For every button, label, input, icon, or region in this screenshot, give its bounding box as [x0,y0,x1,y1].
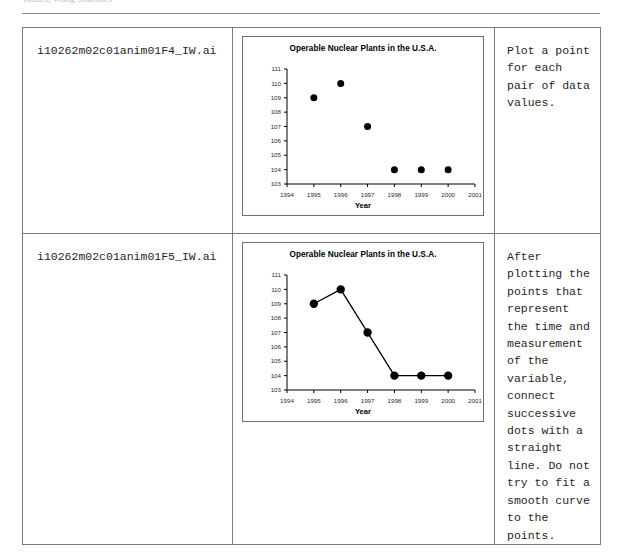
svg-text:2000: 2000 [441,397,455,404]
svg-text:107: 107 [271,329,282,336]
note-cell: Plot a point for each pair of data value… [495,28,601,234]
filename-cell: i10262m02c01anim01F4_IW.ai [23,28,233,234]
line-plot-svg: 1031041051061071081091101111994199519961… [243,243,485,423]
figure-cell: Operable Nuclear Plants in the U.S.A. 10… [233,28,495,234]
svg-text:1996: 1996 [334,191,348,198]
svg-text:108: 108 [271,314,282,321]
page-root: Vander, Wong Statistics i10262m02c01anim… [0,0,623,559]
svg-text:105: 105 [271,151,282,158]
svg-text:109: 109 [271,94,282,101]
figure-wrapper: Operable Nuclear Plants in the U.S.A. 10… [233,28,494,216]
figure-line: Operable Nuclear Plants in the U.S.A. 10… [242,242,484,422]
svg-text:106: 106 [271,343,282,350]
header-divider [22,13,600,14]
svg-text:109: 109 [271,300,282,307]
figure-wrapper: Operable Nuclear Plants in the U.S.A. 10… [233,234,494,422]
svg-text:111: 111 [272,271,282,278]
svg-text:2001: 2001 [468,397,482,404]
artwork-filename: i10262m02c01anim01F4_IW.ai [23,28,232,57]
instruction-note: After plotting the points that represent… [495,234,600,544]
note-cell: After plotting the points that represent… [495,234,601,545]
svg-text:1994: 1994 [280,191,294,198]
svg-text:103: 103 [271,386,282,393]
svg-text:1995: 1995 [307,191,321,198]
svg-text:1994: 1994 [280,397,294,404]
running-header: Vander, Wong Statistics [22,0,112,4]
svg-text:2000: 2000 [441,191,455,198]
svg-text:1999: 1999 [414,191,428,198]
svg-text:1996: 1996 [334,397,348,404]
svg-text:1997: 1997 [361,397,375,404]
svg-text:2001: 2001 [468,191,482,198]
figure-scatter: Operable Nuclear Plants in the U.S.A. 10… [242,36,484,216]
svg-text:106: 106 [271,137,282,144]
scatter-plot-svg: 1031041051061071081091101111994199519961… [243,37,485,217]
svg-text:110: 110 [271,80,281,87]
specification-table: i10262m02c01anim01F4_IW.ai Operable Nucl… [22,27,601,545]
x-axis-label: Year [243,201,483,210]
svg-text:103: 103 [271,180,282,187]
artwork-filename: i10262m02c01anim01F5_IW.ai [23,234,232,263]
svg-text:104: 104 [271,166,282,173]
svg-text:1998: 1998 [388,191,402,198]
svg-text:1995: 1995 [307,397,321,404]
svg-text:1999: 1999 [414,397,428,404]
filename-cell: i10262m02c01anim01F5_IW.ai [23,234,233,545]
table-row: i10262m02c01anim01F5_IW.ai Operable Nucl… [23,234,601,545]
svg-text:1998: 1998 [388,397,402,404]
svg-text:108: 108 [271,108,282,115]
svg-text:110: 110 [271,286,281,293]
figure-cell: Operable Nuclear Plants in the U.S.A. 10… [233,234,495,545]
svg-text:111: 111 [272,65,282,72]
svg-text:105: 105 [271,357,282,364]
table-row: i10262m02c01anim01F4_IW.ai Operable Nucl… [23,28,601,234]
svg-text:104: 104 [271,372,282,379]
svg-text:107: 107 [271,123,282,130]
instruction-note: Plot a point for each pair of data value… [495,28,600,112]
svg-text:1997: 1997 [361,191,375,198]
x-axis-label: Year [243,407,483,416]
